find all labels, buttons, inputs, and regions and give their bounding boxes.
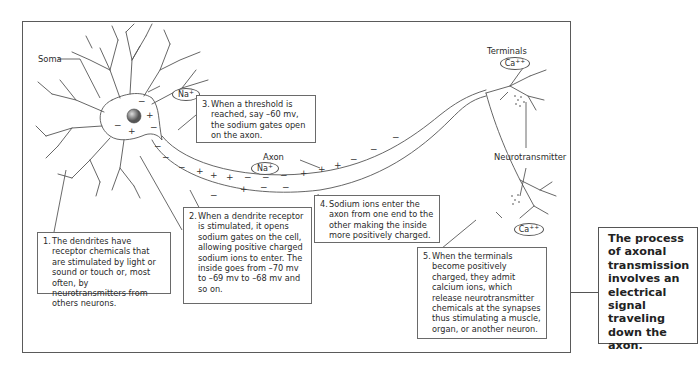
svg-text:+: + [196, 166, 204, 176]
svg-text:−: − [244, 172, 252, 182]
svg-text:−: − [162, 152, 170, 162]
summary-connector [571, 292, 598, 293]
terminals-label: Terminals [487, 46, 527, 56]
na-ion-axon: Na+ [251, 162, 279, 175]
svg-text:−: − [282, 182, 290, 192]
ca-ion-bottom: Ca++ [514, 223, 544, 236]
svg-text:−: − [210, 190, 218, 200]
neurotransmitter-label: Neurotransmitter [494, 152, 566, 162]
step-2-callout: 2. When a dendrite receptor is stimulate… [183, 207, 312, 304]
svg-text:−: − [178, 162, 186, 172]
svg-text:−: − [370, 144, 378, 154]
svg-text:+: + [210, 170, 218, 180]
svg-text:−: − [350, 154, 358, 164]
svg-text:+: + [334, 160, 342, 170]
step-1-callout: 1. The dendrites have receptor chemicals… [37, 232, 171, 294]
svg-text:−: − [154, 141, 162, 151]
soma-label: Soma [38, 54, 62, 64]
svg-text:−: − [392, 132, 400, 142]
step-4-callout: 4. Sodium ions enter the axon from one e… [314, 195, 440, 243]
svg-text:+: + [240, 184, 248, 194]
ca-ion-top: Ca++ [500, 57, 530, 70]
svg-text:−: − [138, 96, 146, 106]
nucleus [127, 109, 141, 123]
svg-text:−: − [280, 170, 288, 180]
svg-text:+: + [318, 164, 326, 174]
svg-text:−: − [114, 120, 122, 130]
svg-text:+: + [226, 172, 234, 182]
svg-text:+: + [146, 110, 154, 120]
step-3-callout: 3. When a threshold is reached, say –60 … [196, 95, 316, 143]
axon-label: Axon [263, 152, 284, 162]
summary-box: The process of axonal transmission invol… [598, 227, 698, 344]
step-5-callout: 5. When the terminals become positively … [417, 247, 547, 339]
svg-text:+: + [300, 168, 308, 178]
svg-text:−: − [260, 182, 268, 192]
svg-text:−: − [150, 122, 158, 132]
svg-text:+: + [128, 126, 136, 136]
